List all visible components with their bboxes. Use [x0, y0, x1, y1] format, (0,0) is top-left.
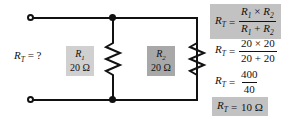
equation-substitution: RT = 20 × 20 20 + 20	[215, 38, 277, 64]
equation-formula-fraction: R1 × R2 R1 + R2	[239, 6, 276, 37]
equation-substitution-numerator: 20 × 20	[239, 38, 277, 51]
r1-resistor-symbol	[103, 40, 123, 80]
r2-value-label: 20 Ω	[151, 62, 171, 74]
top-left-terminal	[27, 14, 34, 21]
equation-reduction: RT = 400 40	[215, 69, 260, 95]
equation-substitution-denominator: 20 + 20	[239, 51, 277, 65]
equation-reduction-operator: =	[229, 76, 235, 88]
equation-formula: RT = R1 × R2 R1 + R2	[210, 4, 281, 39]
equation-substitution-lhs: RT	[215, 43, 226, 58]
equation-formula-lhs: RT	[215, 14, 226, 29]
equation-result: RT = 10 Ω	[212, 97, 268, 116]
bottom-junction-dot	[109, 96, 116, 103]
r1-label-box: R1 20 Ω	[66, 46, 94, 76]
equation-reduction-denominator: 40	[242, 82, 257, 96]
r2-resistor-symbol	[187, 40, 207, 80]
unknown-resistance-label: RT = ?	[14, 49, 41, 64]
circuit-diagram-figure: RT = ? R1 20 Ω R2 20 Ω RT = R1 × R2 R1 +…	[0, 0, 303, 118]
r1-name-label: R1	[70, 48, 90, 62]
equation-substitution-fraction: 20 × 20 20 + 20	[239, 38, 277, 64]
r2-label-box: R2 20 Ω	[147, 46, 175, 76]
equation-reduction-lhs: RT	[215, 74, 226, 89]
bottom-left-terminal	[27, 96, 34, 103]
equation-reduction-fraction: 400 40	[239, 69, 260, 95]
equation-result-value: 10 Ω	[241, 101, 263, 113]
r2-name-label: R2	[151, 48, 171, 62]
equation-reduction-numerator: 400	[239, 69, 260, 82]
equation-formula-operator: =	[229, 16, 235, 28]
r1-value-label: 20 Ω	[70, 62, 90, 74]
equation-result-operator: =	[231, 101, 237, 113]
top-junction-dot	[109, 14, 116, 21]
equation-result-lhs: RT	[217, 99, 228, 114]
equation-formula-denominator: R1 + R2	[239, 21, 276, 37]
equation-substitution-operator: =	[229, 45, 235, 57]
equation-formula-numerator: R1 × R2	[239, 6, 276, 21]
